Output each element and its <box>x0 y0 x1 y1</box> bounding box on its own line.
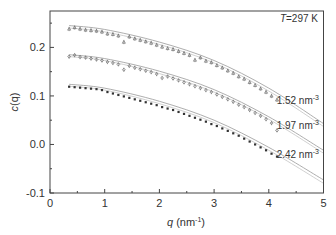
data-point <box>117 94 119 96</box>
data-point <box>172 109 174 111</box>
data-point <box>199 119 201 121</box>
data-point <box>205 121 207 123</box>
data-point <box>259 146 261 148</box>
data-point <box>128 97 130 99</box>
data-point <box>134 98 136 100</box>
temperature-annotation: T=297 K <box>280 13 318 24</box>
data-point <box>74 86 76 88</box>
data-point <box>243 138 245 140</box>
x-axis-label: q (nm-1) <box>167 216 205 228</box>
series-label: 2.42 nm-3 <box>277 148 319 160</box>
x-tick-label: 0 <box>47 197 53 209</box>
y-axis-label: c(q) <box>8 93 20 112</box>
axes-layer: 012345-0.10.00.10.2 <box>26 23 327 209</box>
data-point <box>216 125 218 127</box>
data-point <box>167 107 169 109</box>
data-point <box>101 89 103 91</box>
data-point <box>106 91 108 93</box>
fit-line-secondary <box>69 28 323 127</box>
y-tick-label: -0.1 <box>26 187 45 199</box>
data-point <box>183 113 185 115</box>
x-tick-label: 1 <box>102 197 108 209</box>
series-layer: 1.52 nm-31.97 nm-32.42 nm-3 <box>68 25 324 183</box>
data-point <box>90 88 92 90</box>
data-point <box>232 132 234 134</box>
data-point <box>249 140 251 142</box>
y-tick-label: 0.2 <box>30 41 45 53</box>
data-point <box>95 88 97 90</box>
data-point <box>161 106 163 108</box>
data-point <box>150 103 152 105</box>
data-point <box>227 130 229 132</box>
data-point <box>68 86 70 88</box>
data-point <box>194 117 196 119</box>
series-1: 1.52 nm-3 <box>68 25 324 126</box>
data-point <box>188 115 190 117</box>
data-point <box>254 143 256 145</box>
fit-line <box>69 26 323 124</box>
series-label: 1.97 nm-3 <box>277 119 319 131</box>
series-label: 1.52 nm-3 <box>277 94 319 106</box>
chart: 1.52 nm-31.97 nm-32.42 nm-3 012345-0.10.… <box>0 0 336 235</box>
data-point <box>265 149 267 151</box>
data-point <box>112 92 114 94</box>
data-point <box>79 87 81 89</box>
data-point <box>145 101 147 103</box>
x-tick-label: 4 <box>266 197 272 209</box>
x-tick-label: 5 <box>320 197 326 209</box>
y-tick-label: 0.1 <box>30 90 45 102</box>
data-point <box>123 95 125 97</box>
data-point <box>238 135 240 137</box>
x-tick-label: 2 <box>156 197 162 209</box>
data-point <box>177 111 179 113</box>
data-point <box>270 153 272 155</box>
data-point <box>221 127 223 129</box>
data-point <box>210 123 212 125</box>
data-point <box>139 100 141 102</box>
x-tick-label: 3 <box>211 197 217 209</box>
data-point <box>84 87 86 89</box>
y-tick-label: 0.0 <box>30 138 45 150</box>
data-point <box>156 104 158 106</box>
